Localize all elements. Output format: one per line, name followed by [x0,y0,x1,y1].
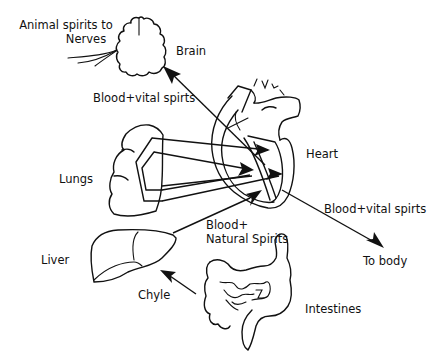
label-animal-spirits-line2: Nerves [16,32,116,46]
label-intestines: Intestines [305,302,361,316]
arrow-heart-to-brain [163,66,265,165]
brain-drawing [116,17,166,76]
intestines-drawing [204,234,291,350]
label-animal-spirits: Animal spirits to Nerves [16,18,116,46]
label-animal-spirits-line1: Animal spirits to [16,18,116,32]
label-heart: Heart [306,147,338,161]
label-blood-natural-line2: Natural Spirits [206,232,288,246]
label-to-body: To body [363,254,407,268]
label-blood-natural: Blood+ Natural Spirits [206,218,288,246]
arrow-heart-to-body [282,190,384,248]
liver-drawing [91,230,176,282]
label-blood-vital-brain: Blood+vital spirts [93,91,195,105]
label-brain: Brain [176,44,206,58]
heart-drawing [212,79,300,208]
label-blood-vital-body: Blood+vital spirts [324,202,426,216]
nerves-drawing [68,50,117,66]
label-chyle: Chyle [138,288,170,302]
label-liver: Liver [41,253,69,267]
label-blood-natural-line1: Blood+ [206,218,288,232]
label-lungs: Lungs [59,172,93,186]
